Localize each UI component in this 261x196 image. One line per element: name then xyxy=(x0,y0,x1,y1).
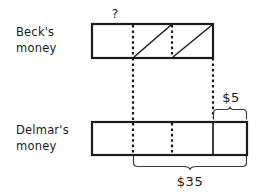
delmars-money-row: Delmar's money xyxy=(16,122,247,155)
delmars-label-line2: money xyxy=(16,139,56,153)
thirtyfive-dollar-brace xyxy=(134,156,247,170)
five-dollar-label: $5 xyxy=(222,90,240,105)
unknown-question-mark: ? xyxy=(112,7,118,21)
becks-label-line2: money xyxy=(16,41,56,55)
tape-diagram-canvas: Beck's money ? $5 Delmar's money xyxy=(0,0,261,196)
delmars-label-line1: Delmar's xyxy=(16,123,69,137)
bar-connectors xyxy=(133,58,213,122)
becks-label-line1: Beck's xyxy=(16,25,54,39)
thirtyfive-dollar-brace-group: $35 xyxy=(134,156,247,189)
five-dollar-brace xyxy=(214,107,247,120)
thirtyfive-dollar-label: $35 xyxy=(177,174,204,189)
delmars-bar-outline xyxy=(92,122,247,155)
five-dollar-brace-group: $5 xyxy=(214,90,247,120)
becks-money-row: Beck's money ? xyxy=(16,7,213,58)
